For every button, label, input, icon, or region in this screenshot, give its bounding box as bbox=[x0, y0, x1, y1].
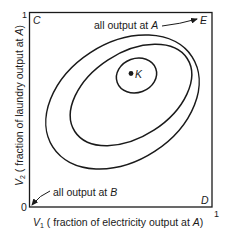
point-k-label: K bbox=[135, 68, 143, 80]
y-axis-label: V2 ( fraction of laundry output at A) bbox=[13, 25, 26, 186]
unit-square-frame bbox=[30, 13, 213, 208]
corner-e-label: E bbox=[200, 14, 208, 26]
arrow-icon-to-e bbox=[162, 19, 197, 26]
x-axis-label: V1 ( fraction of electricity output at A… bbox=[33, 216, 203, 229]
y-max-label: 1 bbox=[22, 10, 27, 20]
contour-middle bbox=[52, 23, 210, 166]
point-k-dot bbox=[129, 71, 134, 76]
contour-lines bbox=[21, 7, 224, 196]
corner-c-label: C bbox=[33, 14, 41, 26]
origin-label: 0 bbox=[21, 201, 27, 213]
contour-diagram: K C E D all output at A all output at B … bbox=[0, 0, 225, 239]
corner-d-label: D bbox=[201, 194, 209, 206]
arrow-icon-to-origin bbox=[32, 191, 50, 205]
annotation-all-output-at-a: all output at A bbox=[94, 19, 158, 31]
contour-outer bbox=[21, 7, 224, 196]
x-max-label: 1 bbox=[214, 209, 219, 219]
annotation-all-output-at-b: all output at B bbox=[53, 186, 117, 198]
